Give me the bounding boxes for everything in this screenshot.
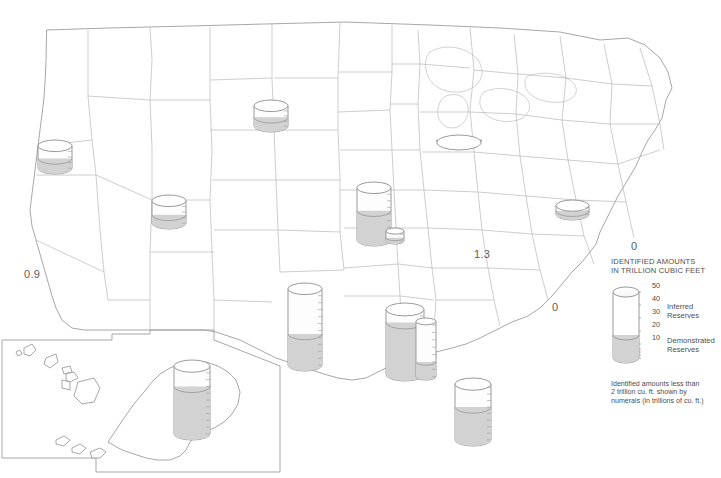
legend-tick-labels: 50 40 30 20 10: [644, 286, 660, 366]
map-figure: 0.91.300 IDENTIFIED AMOUNTS IN TRILLION …: [0, 0, 721, 478]
cylinder-rocky-mountains: [152, 195, 186, 229]
cylinder-alaska: [174, 360, 210, 440]
legend-tick-40: 40: [652, 295, 660, 303]
cylinder-mississippi-alabama: [416, 318, 436, 380]
cylinder-appalachian: [556, 200, 589, 220]
numeral-kentucky-tennessee: 1.3: [474, 248, 490, 260]
numeral-california: 0.9: [24, 268, 40, 280]
legend-cylinder-symbol: [611, 286, 641, 366]
legend-label-inferred: Inferred Reserves: [667, 302, 699, 321]
cylinder-arkansas: [386, 228, 404, 244]
legend-tick-30: 30: [652, 308, 660, 316]
map-legend: IDENTIFIED AMOUNTS IN TRILLION CUBIC FEE…: [611, 257, 719, 372]
numeral-southeast: 0: [552, 301, 558, 313]
cylinder-michigan-basin: [437, 135, 481, 150]
cylinder-gulf-of-mexico: [455, 378, 491, 446]
us-map-graphic: [0, 0, 721, 478]
legend-title: IDENTIFIED AMOUNTS IN TRILLION CUBIC FEE…: [611, 257, 719, 276]
legend-tick-20: 20: [652, 321, 660, 329]
legend-tick-10: 10: [652, 334, 660, 342]
cylinder-northern-plains: [254, 100, 288, 132]
legend-tick-50: 50: [652, 282, 660, 290]
numeral-mid-atlantic: 0: [631, 240, 637, 252]
legend-note: Identified amounts less than 2 trillion …: [611, 380, 721, 406]
cylinder-texas: [288, 283, 322, 371]
cylinder-pacific-northwest: [38, 140, 72, 174]
legend-label-demonstrated: Demonstrated Reserves: [667, 336, 715, 355]
